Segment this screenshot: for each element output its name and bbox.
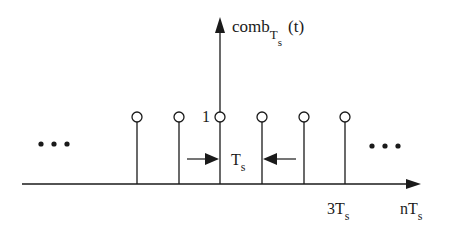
arrow-right-icon	[205, 153, 219, 165]
spacing-label: Ts	[231, 151, 246, 174]
impulse-circle-icon	[299, 112, 309, 122]
arrow-left-icon	[263, 153, 277, 165]
impulse-circle-icon	[215, 112, 225, 122]
height-label: 1	[202, 108, 210, 125]
x-axis-arrow-icon	[406, 179, 421, 189]
tick-label-3ts: 3Ts	[327, 200, 350, 223]
impulse-stem	[132, 112, 142, 184]
impulse-circle-icon	[174, 112, 184, 122]
ellipsis-left-icon	[38, 141, 69, 146]
y-axis-arrow-icon	[215, 17, 225, 33]
impulse-circle-icon	[257, 112, 267, 122]
impulse-stem	[174, 112, 184, 184]
x-axis	[22, 179, 421, 189]
impulse-stem	[215, 112, 225, 122]
impulse-circle-icon	[340, 112, 350, 122]
impulse-train-diagram: combTs(t) 1 Ts 3Ts nTs	[0, 0, 451, 235]
y-axis-label: combTs(t)	[232, 17, 304, 48]
ellipsis-right-icon	[369, 143, 400, 148]
x-axis-label: nTs	[400, 200, 423, 223]
impulse-stem	[340, 112, 350, 184]
impulse-stem	[299, 112, 309, 184]
impulse-stem	[257, 112, 267, 184]
impulse-circle-icon	[132, 112, 142, 122]
